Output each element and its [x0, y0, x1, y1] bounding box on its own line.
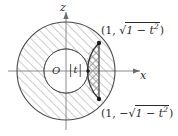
radicand-top: 1 − t2 — [125, 22, 159, 36]
paren-close-bottom: ) — [169, 107, 173, 120]
x-axis-arrowhead — [133, 68, 140, 73]
origin-label: O — [52, 66, 60, 76]
radicand-exponent-top: 2 — [154, 22, 159, 31]
radicand-base-top: 1 − t — [126, 24, 154, 37]
comma-top: , — [112, 24, 119, 37]
point-top-label: (1, √1 − t2) — [101, 22, 164, 36]
z-axis-label: z — [60, 2, 66, 13]
math-figure: z x O |t| (1, √1 − t2) (1, −√1 − t2) — [0, 0, 178, 136]
radicand-exponent-bottom: 2 — [163, 105, 168, 114]
radicand-bottom: 1 − t2 — [135, 105, 169, 119]
radicand-base-bottom: 1 − t — [136, 107, 164, 120]
paren-close-top: ) — [160, 24, 164, 37]
x-axis-label: x — [140, 70, 146, 81]
point-bottom-marker — [97, 97, 101, 101]
inner-radius-label: |t| — [68, 65, 83, 75]
abs-bar-open: | — [68, 63, 73, 77]
point-top-marker — [97, 41, 101, 45]
point-bottom-label: (1, −√1 − t2) — [101, 105, 173, 119]
point-inner-radius-marker — [86, 69, 90, 73]
radical-bottom: √1 − t2 — [129, 105, 169, 119]
radical-top: √1 − t2 — [119, 22, 159, 36]
minus-sign-bottom: − — [119, 107, 128, 120]
abs-bar-close: | — [77, 63, 82, 77]
